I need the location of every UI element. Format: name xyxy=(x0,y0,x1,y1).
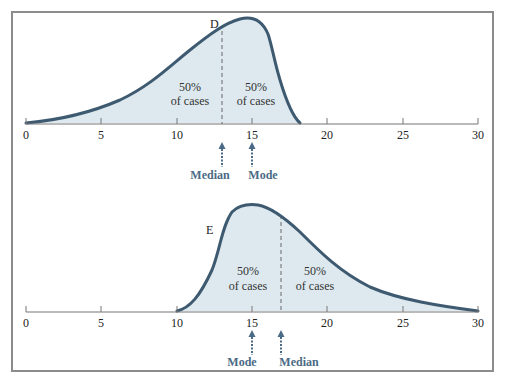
chart-d-tick-0: 0 xyxy=(23,128,29,142)
chart-d-tick-10: 10 xyxy=(171,128,183,142)
chart-d-left-pct: 50% xyxy=(179,80,201,94)
chart-e-curve-label: E xyxy=(206,223,213,237)
chart-e-right-pct: 50% xyxy=(304,264,326,278)
chart-d-tick-20: 20 xyxy=(321,128,333,142)
chart-d-right-pct: 50% xyxy=(245,80,267,94)
chart-e-tick-5: 5 xyxy=(98,316,104,330)
chart-e-tick-30: 30 xyxy=(472,316,484,330)
chart-e-tick-10: 10 xyxy=(171,316,183,330)
chart-d-median-arrow xyxy=(219,142,226,167)
chart-d-tick-25: 25 xyxy=(397,128,409,142)
chart-e-tick-15: 15 xyxy=(246,316,258,330)
chart-d-mode-label: Mode xyxy=(248,168,278,182)
chart-e-left-text: of cases xyxy=(229,279,268,293)
chart-e-mode-arrow xyxy=(249,330,256,355)
chart-e-mode-label: Mode xyxy=(227,355,257,369)
chart-e-tick-20: 20 xyxy=(321,316,333,330)
chart-d-median-label: Median xyxy=(190,168,230,182)
chart-e: 0 5 10 15 20 25 30 E 50% of cases 50% of… xyxy=(23,205,484,369)
chart-e-left-pct: 50% xyxy=(237,264,259,278)
chart-e-tick-25: 25 xyxy=(397,316,409,330)
chart-d: 0 5 10 15 20 25 30 D 50% of cases 50% of… xyxy=(23,17,484,182)
chart-e-right-text: of cases xyxy=(296,279,335,293)
chart-d-tick-15: 15 xyxy=(246,128,258,142)
chart-d-tick-5: 5 xyxy=(98,128,104,142)
chart-e-tick-0: 0 xyxy=(23,316,29,330)
chart-e-median-arrow xyxy=(278,330,285,355)
chart-d-tick-30: 30 xyxy=(472,128,484,142)
chart-canvas: 0 5 10 15 20 25 30 D 50% of cases 50% of… xyxy=(0,0,507,385)
chart-d-curve-label: D xyxy=(210,17,219,31)
chart-e-median-label: Median xyxy=(279,355,319,369)
chart-d-mode-arrow xyxy=(249,142,256,167)
chart-d-right-text: of cases xyxy=(237,94,276,108)
chart-d-left-text: of cases xyxy=(171,94,210,108)
